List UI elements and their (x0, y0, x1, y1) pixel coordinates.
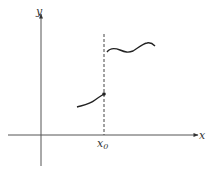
y-axis-label: y (35, 5, 43, 18)
x0-label: x0 (97, 137, 108, 151)
endpoint-dot (102, 92, 106, 96)
left-curve (77, 94, 104, 107)
right-curve (107, 43, 155, 52)
discontinuity-diagram: y x x0 (0, 0, 209, 175)
x-axis-label: x (199, 129, 206, 142)
